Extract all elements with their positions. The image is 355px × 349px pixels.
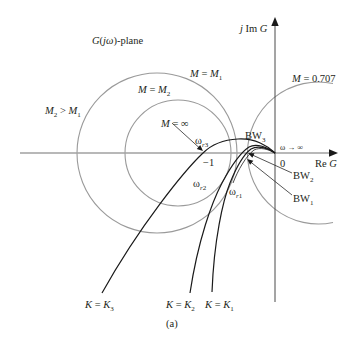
diagram-svg: G(jω)-plane j Im G Re G 0 −1 M = M1 M = … [0,0,355,349]
m1-circle-label: M = M1 [189,68,223,82]
imaginary-axis-arrow-icon [271,17,278,26]
k1-label: K = K1 [204,299,234,313]
m-0707-label: M = 0.707 [291,73,336,84]
curve-k1 [212,147,275,292]
omega-to-infinity-label: ω → ∞ [280,143,303,152]
m-infinity-label: M = ∞ [160,118,188,129]
bw1-label: BW1 [293,193,314,207]
plane-label: G(jω)-plane [92,35,144,47]
k3-label: K = K3 [84,299,114,313]
nyquist-m-circles-figure: G(jω)-plane j Im G Re G 0 −1 M = M1 M = … [0,0,355,349]
origin-label: 0 [280,158,285,169]
real-axis-arrow-icon [329,149,338,156]
bw2-pointer [253,155,292,173]
bw1-pointer [251,162,292,195]
figure-caption: (a) [166,318,178,330]
real-axis-label: Re G [315,158,337,169]
m2-greater-m1-label: M2 > M1 [44,105,81,119]
k2-label: K = K2 [165,299,195,313]
m2-circle-label: M = M2 [137,84,171,98]
bw2-label: BW2 [293,170,314,184]
omega-r3-label: ωr3 [195,135,209,149]
minus-one-label: −1 [203,157,214,168]
imaginary-axis-label: j Im G [238,23,268,34]
omega-r2-label: ωr2 [193,178,207,192]
omega-r1-label: ωr1 [229,186,243,200]
